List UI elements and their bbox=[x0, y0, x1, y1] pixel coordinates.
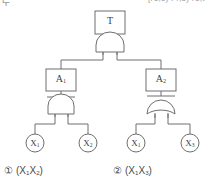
diagram-canvas: 도. [r1,s) r4,s) r1,t bbox=[0, 0, 207, 181]
edge-G0-to-A2 bbox=[117, 52, 161, 69]
and-gate-left bbox=[47, 94, 75, 117]
edge-G1-to-X2 bbox=[68, 114, 88, 135]
event-box-A1 bbox=[46, 69, 76, 91]
fault-tree-graphic bbox=[0, 0, 207, 181]
event-box-T bbox=[95, 11, 125, 34]
cut-set-marker-2: ② bbox=[113, 165, 122, 176]
basic-event-circle-X1-left bbox=[26, 134, 44, 152]
edge-G2-to-X3 bbox=[168, 114, 190, 135]
cut-set-caption-2: ②(X1X3) bbox=[113, 165, 152, 176]
edge-G2-to-X1b bbox=[136, 114, 155, 135]
edge-G1-to-X1a bbox=[35, 114, 55, 135]
or-gate-right bbox=[147, 96, 175, 118]
cut-set-marker-1: ① bbox=[4, 165, 13, 176]
edge-G0-to-A1 bbox=[61, 52, 103, 69]
basic-event-circle-X1-right bbox=[127, 134, 145, 152]
cut-set-caption-1: ①(X1X2) bbox=[4, 165, 43, 176]
and-gate-top bbox=[96, 32, 124, 55]
basic-event-circle-X2 bbox=[79, 134, 97, 152]
basic-event-circle-X3 bbox=[181, 134, 199, 152]
event-box-A2 bbox=[146, 69, 176, 91]
